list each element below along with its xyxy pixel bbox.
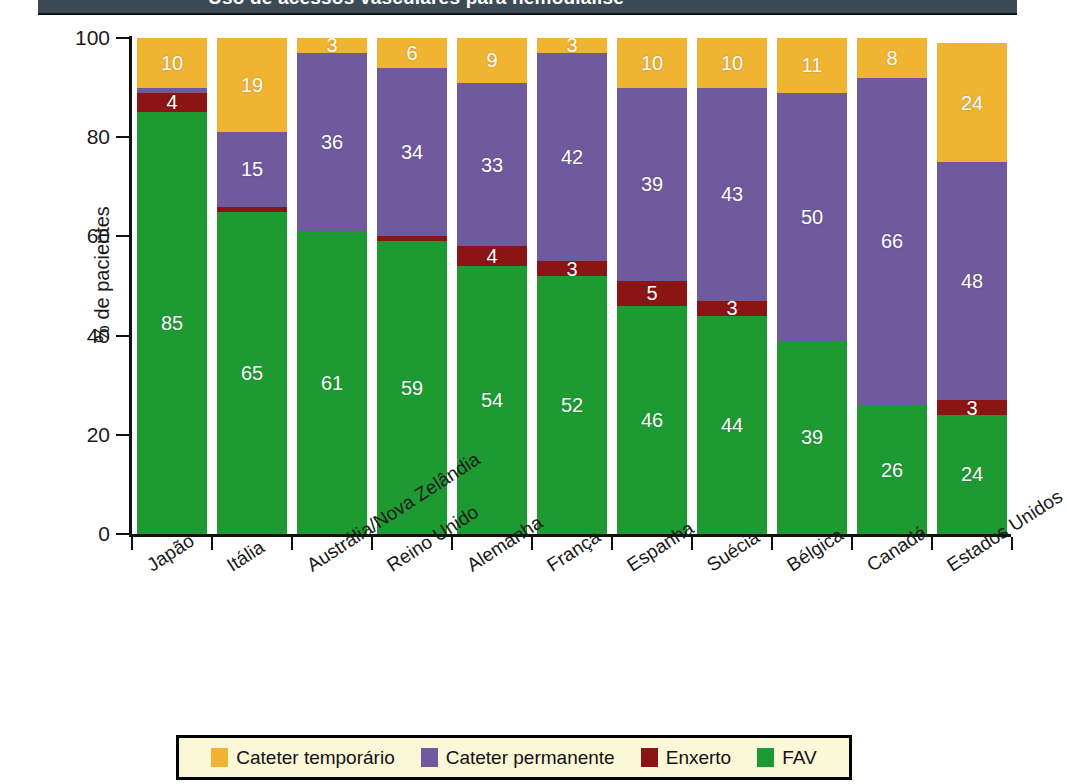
segment-enxerto[interactable]: 4: [457, 246, 527, 266]
segment-cateter-tempor-rio[interactable]: 9: [457, 38, 527, 83]
segment-enxerto[interactable]: 3: [537, 261, 607, 276]
segment-value-label: 15: [217, 159, 287, 179]
bar-su-cia[interactable]: 4434310: [697, 38, 767, 534]
y-tick-label-20: 20: [64, 423, 110, 447]
segment-cateter-permanente[interactable]: 43: [697, 88, 767, 301]
segment-cateter-tempor-rio[interactable]: 10: [137, 38, 207, 88]
segment-value-label: 50: [777, 207, 847, 227]
legend-item-fav[interactable]: FAV: [757, 747, 817, 769]
segment-value-label: 85: [137, 313, 207, 333]
segment-value-label: 34: [377, 142, 447, 162]
y-tick-label-40: 40: [64, 324, 110, 348]
legend-swatch-temporary-catheter: [211, 748, 228, 767]
segment-cateter-tempor-rio[interactable]: 11: [777, 38, 847, 93]
segment-cateter-tempor-rio[interactable]: 19: [217, 38, 287, 132]
bar-it-lia[interactable]: 6511519: [217, 38, 287, 534]
legend-label: Cateter temporário: [236, 747, 394, 769]
segment-cateter-tempor-rio[interactable]: 10: [697, 38, 767, 88]
bar-austr-lia-nova-zel-ndia[interactable]: 61363: [297, 38, 367, 534]
segment-cateter-permanente[interactable]: 39: [617, 88, 687, 281]
legend-item-permanent-catheter[interactable]: Cateter permanente: [421, 747, 615, 769]
segment-value-label: 26: [857, 460, 927, 480]
segment-fav[interactable]: 26: [857, 405, 927, 534]
x-tick-8: [771, 537, 773, 550]
y-tick-label-80: 80: [64, 125, 110, 149]
y-tick-0: [116, 533, 129, 535]
x-axis-line: [129, 534, 1011, 537]
segment-fav[interactable]: 61: [297, 231, 367, 534]
segment-enxerto[interactable]: 4: [137, 93, 207, 113]
segment-cateter-permanente[interactable]: 50: [777, 93, 847, 341]
segment-cateter-permanente[interactable]: 33: [457, 83, 527, 247]
segment-enxerto[interactable]: 3: [697, 301, 767, 316]
segment-cateter-tempor-rio[interactable]: 24: [937, 43, 1007, 162]
bar-b-lgica[interactable]: 395011: [777, 38, 847, 534]
segment-value-label: 3: [297, 35, 367, 55]
segment-value-label: 5: [617, 283, 687, 303]
segment-fav[interactable]: 44: [697, 316, 767, 534]
segment-value-label: 66: [857, 231, 927, 251]
bar-estados-unidos[interactable]: 2434824: [937, 43, 1007, 534]
segment-value-label: 3: [937, 398, 1007, 418]
segment-fav[interactable]: 85: [137, 112, 207, 534]
bar-canad-[interactable]: 26668: [857, 38, 927, 534]
segment-cateter-tempor-rio[interactable]: 6: [377, 38, 447, 68]
segment-enxerto[interactable]: 1: [217, 207, 287, 212]
segment-enxerto[interactable]: 3: [937, 400, 1007, 415]
segment-value-label: 10: [697, 53, 767, 73]
segment-enxerto[interactable]: 1: [377, 236, 447, 241]
segment-value-label: 52: [537, 395, 607, 415]
segment-cateter-permanente[interactable]: 66: [857, 78, 927, 405]
segment-value-label: 9: [457, 50, 527, 70]
chart-title-clipped: Uso de acessos vasculares para hemodiáli…: [208, 0, 624, 9]
segment-value-label: 48: [937, 271, 1007, 291]
segment-value-label: 10: [617, 53, 687, 73]
segment-fav[interactable]: 54: [457, 266, 527, 534]
legend-item-graft[interactable]: Enxerto: [641, 747, 731, 769]
y-tick-80: [116, 136, 129, 138]
y-tick-60: [116, 235, 129, 237]
bar-jap-o[interactable]: 854110: [137, 38, 207, 534]
segment-value-label: 11: [777, 55, 847, 75]
segment-value-label: 6: [377, 43, 447, 63]
segment-value-label: 39: [617, 174, 687, 194]
segment-cateter-permanente[interactable]: 36: [297, 53, 367, 232]
segment-cateter-permanente[interactable]: 48: [937, 162, 1007, 400]
segment-fav[interactable]: 52: [537, 276, 607, 534]
segment-value-label: 39: [777, 427, 847, 447]
segment-value-label: 43: [697, 184, 767, 204]
y-axis-title: % de pacientes: [91, 165, 114, 385]
legend-swatch-permanent-catheter: [421, 748, 438, 767]
segment-cateter-permanente[interactable]: 42: [537, 53, 607, 261]
bar-espanha[interactable]: 4653910: [617, 38, 687, 534]
segment-value-label: 24: [937, 464, 1007, 484]
segment-value-label: 8: [857, 48, 927, 68]
segment-cateter-tempor-rio[interactable]: 3: [537, 38, 607, 53]
bar-reino-unido[interactable]: 591346: [377, 38, 447, 534]
segment-cateter-tempor-rio[interactable]: 8: [857, 38, 927, 78]
segment-value-label: 42: [537, 147, 607, 167]
bar-fran-a[interactable]: 523423: [537, 38, 607, 534]
legend-label: Cateter permanente: [446, 747, 615, 769]
segment-cateter-tempor-rio[interactable]: 10: [617, 38, 687, 88]
segment-fav[interactable]: 24: [937, 415, 1007, 534]
segment-fav[interactable]: 65: [217, 212, 287, 534]
segment-value-label: 59: [377, 378, 447, 398]
segment-cateter-permanente[interactable]: 15: [217, 132, 287, 206]
segment-value-label: 10: [137, 53, 207, 73]
segment-enxerto[interactable]: 5: [617, 281, 687, 306]
x-tick-9: [851, 537, 853, 550]
legend-swatch-fav: [757, 748, 774, 767]
legend-swatch-graft: [641, 748, 658, 767]
segment-fav[interactable]: 39: [777, 341, 847, 534]
segment-cateter-permanente[interactable]: 34: [377, 68, 447, 237]
segment-fav[interactable]: 46: [617, 306, 687, 534]
segment-value-label: 3: [697, 298, 767, 318]
plot-area: 8541106511519613635913465443395234234653…: [129, 38, 1011, 534]
legend-label: FAV: [782, 747, 817, 769]
segment-cateter-permanente[interactable]: 1: [137, 88, 207, 93]
segment-value-label: 3: [537, 35, 607, 55]
segment-cateter-tempor-rio[interactable]: 3: [297, 38, 367, 53]
y-tick-40: [116, 335, 129, 337]
legend-item-temporary-catheter[interactable]: Cateter temporário: [211, 747, 394, 769]
